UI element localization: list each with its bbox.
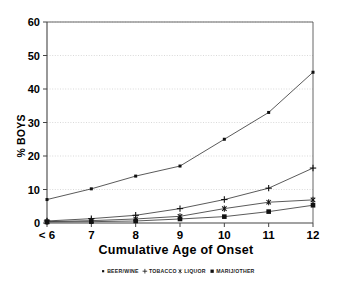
y-tick-label: 0 [34, 217, 40, 229]
y-tick-label: 10 [28, 184, 40, 196]
marker-small-square [223, 138, 226, 141]
marker-filled-square [45, 220, 50, 225]
marker-small-square [179, 165, 182, 168]
legend-label: LIQUOR [184, 268, 206, 274]
marker-small-square [267, 111, 270, 114]
x-tick-label: 10 [218, 229, 231, 241]
marker-small-square [312, 71, 315, 74]
marker-filled-square [133, 219, 138, 224]
x-tick-label: 9 [177, 229, 183, 241]
legend-label: BEER/WINE [107, 268, 139, 274]
chart-figure: 0102030405060 < 6789101112 % BOYS Cumula… [0, 0, 345, 292]
y-tick-label: 50 [28, 50, 40, 62]
line-chart: 0102030405060 < 6789101112 % BOYS Cumula… [0, 0, 345, 292]
x-tick-label: < 6 [39, 229, 55, 241]
marker-filled-square [222, 214, 227, 219]
y-tick-label: 30 [28, 117, 40, 129]
x-tick-label: 7 [88, 229, 94, 241]
x-tick-label: 8 [132, 229, 139, 241]
y-tick-label: 40 [28, 83, 40, 95]
marker-filled-square [311, 203, 316, 208]
marker-small-square [134, 175, 137, 178]
x-tick-label: 11 [263, 229, 276, 241]
y-tick-label: 60 [28, 16, 40, 28]
marker-filled-square [210, 270, 213, 273]
x-axis-title-text: Cumulative Age of Onset [98, 243, 254, 257]
y-tick-label: 20 [28, 150, 40, 162]
marker-small-square [90, 187, 93, 190]
marker-filled-square [266, 209, 271, 214]
legend-label: MARIJ/OTHER [216, 268, 255, 274]
y-axis-title-text: % BOYS [15, 114, 27, 157]
legend-label: TOBACCO [149, 268, 177, 274]
y-axis-title: % BOYS [15, 114, 27, 157]
x-tick-label: 12 [307, 229, 320, 241]
marker-small-square [46, 198, 49, 201]
marker-small-square [102, 270, 104, 272]
marker-filled-square [89, 219, 94, 224]
marker-filled-square [178, 217, 183, 222]
